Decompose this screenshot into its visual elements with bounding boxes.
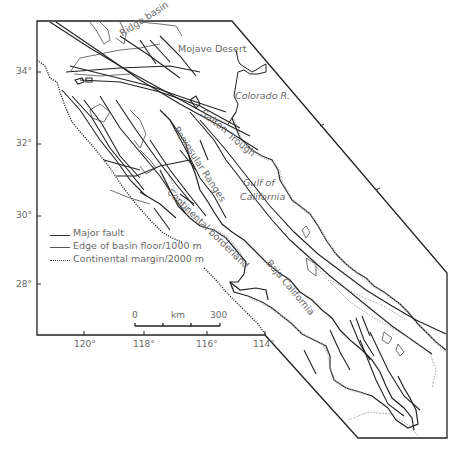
colorado-river: [232, 50, 266, 118]
scale-bar: [135, 323, 220, 326]
legend-item-continental-margin: Continental margin/2000 m: [50, 252, 204, 265]
coast-stipple: [168, 120, 446, 394]
label-mojave-desert: Mojave Desert: [178, 44, 247, 54]
lat-tick-32: 32°: [16, 139, 32, 148]
lon-tick-114: 114°: [253, 340, 275, 349]
label-colorado-river: Colorado R.: [235, 91, 290, 101]
lat-tick-34: 34°: [16, 67, 32, 76]
major-faults: [50, 22, 446, 416]
lat-tick-28: 28°: [16, 280, 32, 289]
scale-end-label: 300: [210, 311, 227, 320]
legend-label: Edge of basin floor/1000 m: [73, 241, 202, 251]
lon-tick-120: 120°: [74, 340, 96, 349]
dotted-line-icon: [50, 257, 70, 261]
basin-floor-edges: [70, 22, 404, 356]
continental-margin-line: [37, 60, 265, 334]
colorado-river-tributary: [228, 112, 236, 124]
legend-item-major-fault: Major fault: [50, 226, 204, 239]
solid-thin-line-icon: [50, 243, 70, 248]
lat-tick-30: 30°: [16, 211, 32, 220]
label-gulf-of: Gulf of: [243, 178, 275, 188]
legend-label: Continental margin/2000 m: [73, 254, 204, 264]
lon-tick-116: 116°: [196, 340, 218, 349]
label-california: California: [240, 192, 285, 202]
lon-tick-118: 118°: [133, 340, 155, 349]
legend-item-basin-floor: Edge of basin floor/1000 m: [50, 239, 204, 252]
scale-start-label: 0: [132, 311, 138, 320]
map-legend: Major fault Edge of basin floor/1000 m C…: [50, 226, 204, 265]
scale-unit-label: km: [171, 311, 185, 320]
legend-label: Major fault: [73, 228, 124, 238]
solid-thick-line-icon: [50, 230, 70, 236]
